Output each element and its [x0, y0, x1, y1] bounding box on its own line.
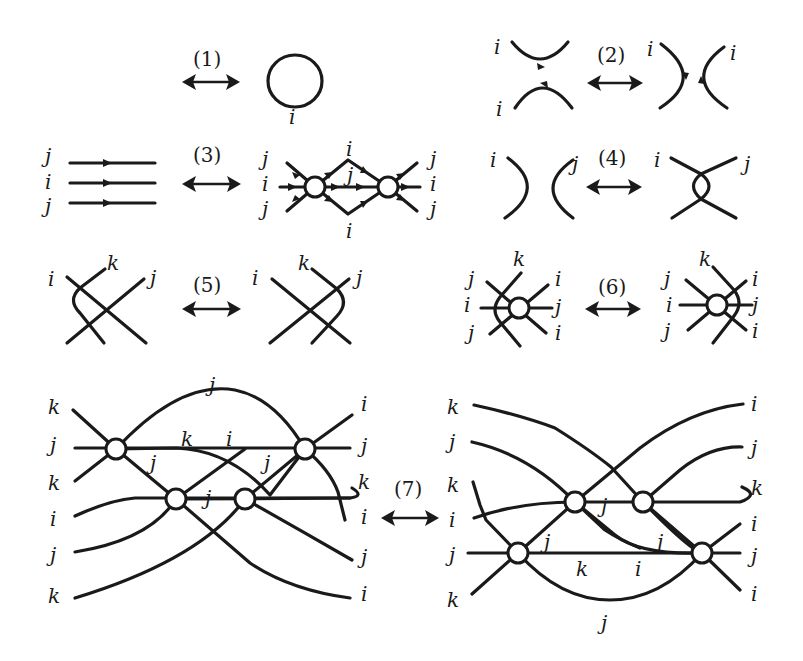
strand-label: j — [747, 544, 757, 568]
strand-label: k — [447, 473, 459, 497]
strand-label: i — [751, 392, 757, 416]
strand-label: j — [205, 373, 215, 397]
strand-label: i — [45, 170, 51, 194]
strand-label: k — [107, 251, 119, 275]
moves-figure: (1) i i i (2) i i j i j — [0, 0, 803, 661]
strand-label: j — [747, 436, 757, 460]
strand-label: i — [346, 219, 352, 243]
move-3-label: (3) — [193, 143, 221, 167]
move-7-right: k j k i j k i j k i j i j j j k i j — [445, 392, 763, 635]
strand-label: i — [635, 557, 641, 581]
strand-label: k — [576, 557, 588, 581]
strand-label: i — [48, 267, 54, 291]
move-7-relation: (7) — [381, 477, 439, 526]
strand-label: i — [449, 508, 455, 532]
strand-label: j — [597, 611, 607, 635]
strand-label: i — [752, 267, 758, 291]
strand-label: j — [146, 451, 156, 475]
vertex-node — [692, 543, 712, 563]
strand-label: i — [494, 35, 500, 59]
double-arrow-icon — [587, 75, 643, 91]
vertex-node — [508, 543, 528, 563]
strand-label: i — [464, 293, 470, 317]
strand-label: j — [464, 321, 474, 345]
strand-label: j — [597, 494, 607, 518]
strand-label: i — [490, 148, 496, 172]
move-6: j k i j i j i (6) j k i j i j i — [464, 247, 758, 346]
double-arrow-icon — [585, 301, 641, 317]
vertex-node — [509, 298, 529, 318]
strand-label: k — [447, 395, 459, 419]
strand-label: i — [751, 582, 757, 606]
vertex-node — [565, 492, 585, 512]
strand-label: j — [464, 267, 474, 291]
vertex-node — [378, 177, 398, 197]
strand-label: i — [496, 97, 502, 121]
move-2-label: (2) — [597, 43, 625, 67]
double-arrow-icon — [182, 176, 241, 192]
move-7-left: k j k i j k i j k i j i j k i j j j — [46, 373, 370, 608]
strand-label: k — [751, 476, 763, 500]
strand-label: j — [740, 152, 750, 176]
double-arrow-icon — [182, 301, 241, 317]
double-arrow-icon — [586, 179, 642, 195]
strand-label: i — [555, 267, 561, 291]
loop-label: i — [289, 105, 295, 129]
strand-label: k — [48, 584, 60, 608]
strand-label: k — [447, 588, 459, 612]
strand-label: k — [513, 247, 525, 271]
strand-left — [660, 44, 683, 108]
strand-label: k — [48, 395, 60, 419]
strand-label: j — [41, 194, 51, 218]
strand-label: i — [430, 172, 436, 196]
strand-label: j — [357, 434, 367, 458]
strand-label: i — [654, 148, 660, 172]
strand-right — [704, 47, 727, 108]
strand-label: j — [46, 433, 56, 457]
strand-label: j — [46, 543, 56, 567]
move-2: i i (2) i i — [494, 35, 736, 121]
strand-label: j — [146, 266, 156, 290]
strand-label: i — [252, 266, 258, 290]
strand-label: i — [752, 319, 758, 343]
diagram-canvas: (1) i i i (2) i i j i j — [0, 0, 803, 661]
strand-label: j — [260, 451, 270, 475]
strand-label: k — [298, 251, 310, 275]
strand-label: i — [555, 321, 561, 345]
loop-circle — [268, 55, 322, 107]
strand-label: j — [445, 543, 455, 567]
double-arrow-icon — [381, 510, 439, 526]
strand-top — [512, 42, 568, 59]
strand-label: j — [352, 266, 362, 290]
strand-label: i — [666, 293, 672, 317]
double-arrow-icon — [182, 74, 240, 90]
strand-label: j — [343, 163, 353, 187]
strand-label: i — [751, 512, 757, 536]
strand-label: j — [660, 267, 670, 291]
move-1: (1) i — [182, 47, 322, 129]
move-5: i k j (5) i k j — [48, 251, 362, 343]
vertex-node — [305, 177, 325, 197]
strand-label: i — [730, 41, 736, 65]
vertex-node — [633, 492, 653, 512]
strand-label: j — [426, 147, 436, 171]
strand-label: j — [357, 545, 367, 569]
strand-label: i — [361, 392, 367, 416]
strand-label: j — [445, 430, 455, 454]
strand-label: j — [258, 197, 268, 221]
strand-label: i — [50, 507, 56, 531]
strand-label: k — [48, 471, 60, 495]
strand-label: j — [660, 319, 670, 343]
strand-label: i — [647, 37, 653, 61]
strand-label: j — [41, 144, 51, 168]
strand-label: i — [361, 582, 367, 606]
vertex-node — [295, 439, 315, 459]
strand-label: k — [358, 470, 370, 494]
move-3: j i j (3) j i j i j i j i j — [41, 137, 436, 243]
strand-bottom — [515, 88, 572, 108]
move-4-label: (4) — [598, 146, 626, 170]
vertex-node — [166, 489, 186, 509]
strand-label: i — [361, 505, 367, 529]
strand-label: j — [426, 197, 436, 221]
move-7-label: (7) — [394, 477, 422, 501]
